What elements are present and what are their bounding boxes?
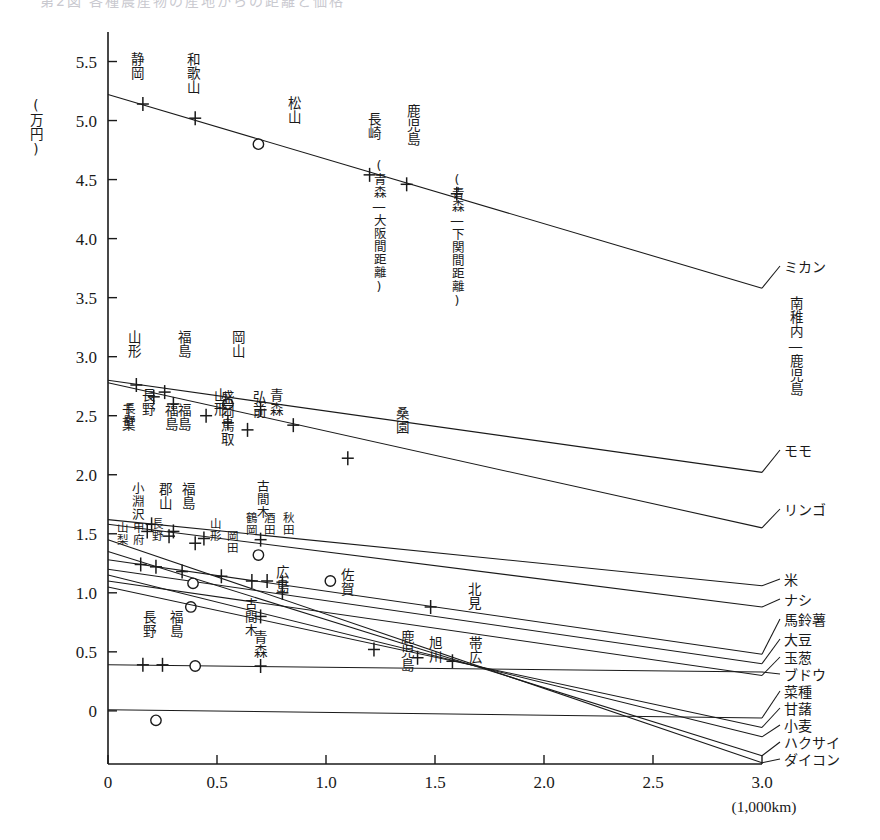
y-tick-label: 4.0: [76, 230, 97, 249]
x-tick-label: 0.5: [206, 773, 227, 792]
y-tick-label: 1.0: [76, 584, 97, 603]
series-label-モモ: モモ: [784, 440, 812, 460]
x-tick-label: 0: [104, 773, 113, 792]
point-label: (青森―下関間距離): [450, 172, 463, 308]
y-tick-label: 0: [89, 702, 98, 721]
x-tick-label: 3.0: [751, 773, 772, 792]
point-label: 甲府: [131, 522, 143, 546]
point-label: 鶴岡: [244, 512, 256, 536]
x-tick-label: 1.5: [424, 773, 445, 792]
x-tick-label: 2.5: [642, 773, 663, 792]
y-tick-label: 4.5: [76, 171, 97, 190]
data-point-circle[interactable]: [151, 715, 161, 725]
x-tick-label: 2.0: [533, 773, 554, 792]
point-label: 福島: [176, 330, 190, 358]
x-axis-unit-label: (1,000km): [731, 798, 796, 816]
y-tick-label: 1.5: [76, 525, 97, 544]
series-label-大豆: 大豆: [784, 629, 812, 649]
point-label: 長野: [140, 388, 154, 416]
point-label: 松山: [286, 96, 300, 124]
legend-leader-モモ: [762, 450, 780, 472]
legend-leader-ナシ: [762, 599, 780, 607]
series-label-ナシ: ナシ: [784, 589, 812, 609]
y-tick-label: 0.5: [76, 643, 97, 662]
point-label: 山梨: [115, 522, 127, 546]
point-label: 郡山: [157, 482, 171, 510]
series-label-馬鈴薯: 馬鈴薯: [784, 609, 826, 629]
point-label: 佐賀: [339, 568, 353, 596]
series-line-米: [108, 520, 762, 586]
point-label: 酒田: [262, 512, 274, 536]
point-label: 福島: [176, 403, 190, 431]
series-label-リンゴ: リンゴ: [784, 499, 826, 519]
point-label: 青森: [268, 388, 282, 416]
point-label: 桑園: [394, 406, 408, 434]
point-label: 山形: [208, 518, 220, 542]
point-label: 青森: [252, 630, 266, 658]
point-label: (青森―大阪間距離): [372, 158, 385, 294]
y-tick-label: 5.0: [76, 112, 97, 131]
point-label: 秋田: [281, 512, 293, 536]
data-point-circle[interactable]: [190, 661, 200, 671]
point-label: 長野: [150, 518, 162, 542]
data-point-circle[interactable]: [253, 550, 263, 560]
point-label: 長野: [141, 610, 155, 638]
series-line-ナシ: [108, 524, 762, 607]
y-tick-label: 5.5: [76, 53, 97, 72]
series-line-ミカン: [108, 95, 762, 289]
point-label: 盛岡: [219, 390, 233, 418]
legend-leader-ハクサイ: [762, 742, 780, 756]
point-label: 弘前: [251, 390, 265, 418]
series-line-モモ: [108, 380, 762, 472]
legend-leader-リンゴ: [762, 509, 780, 528]
point-label: 鹿児島: [399, 630, 413, 672]
point-label: 和歌山: [185, 52, 199, 94]
series-label-ダイコン: ダイコン: [784, 749, 840, 769]
legend-leader-米: [762, 579, 780, 586]
data-point-circle[interactable]: [186, 602, 196, 612]
point-label: 小淵沢: [130, 482, 143, 521]
point-label: 長野: [122, 403, 134, 427]
point-label: 福島: [168, 610, 182, 638]
point-label: 静岡: [129, 52, 143, 80]
point-label: 広島: [274, 565, 288, 593]
series-line-リンゴ: [108, 383, 762, 528]
point-label: 福島: [163, 403, 177, 431]
point-label: 山形: [126, 330, 140, 358]
y-tick-label: 2.5: [76, 407, 97, 426]
point-label: 福島: [180, 482, 194, 510]
data-point-circle[interactable]: [325, 576, 335, 586]
point-label: 長崎: [366, 112, 380, 140]
y-tick-label: 2.0: [76, 466, 97, 485]
legend-leader-ダイコン: [762, 759, 780, 763]
point-label: 北見: [466, 582, 480, 610]
point-label: 鳥取: [219, 418, 233, 446]
x-tick-label: 1.0: [315, 773, 336, 792]
legend-leader-小麦: [762, 725, 780, 737]
series-line-菜種: [108, 710, 762, 718]
series-label-ミカン: ミカン: [784, 256, 826, 276]
point-label: 鹿児島: [405, 104, 419, 146]
point-label: 岡山: [230, 330, 244, 358]
point-label: 旭川: [427, 636, 441, 664]
figure-canvas: 第2図 各種農産物の産地からの距離と価格 (万円) 00.51.01.52.02…: [0, 0, 880, 840]
series-label-米: 米: [784, 569, 798, 589]
y-tick-label: 3.0: [76, 348, 97, 367]
point-label: 帯広: [467, 636, 481, 664]
data-point-circle[interactable]: [253, 139, 263, 149]
point-label: 岡田: [225, 530, 237, 554]
legend-leader-ミカン: [762, 266, 780, 288]
series-line-ブドウ: [108, 665, 762, 672]
legend-leader-馬鈴薯: [762, 619, 780, 654]
y-tick-label: 3.5: [76, 289, 97, 308]
legend-leader-甘藷: [762, 708, 780, 727]
series-sublabel-ミカン: 南稚内―鹿児島: [788, 296, 802, 396]
legend-leader-菜種: [762, 691, 780, 718]
